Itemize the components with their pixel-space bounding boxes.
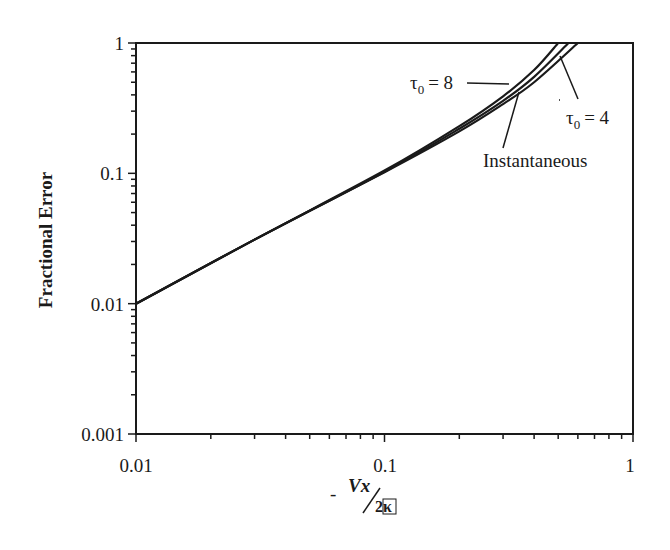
curve-2 xyxy=(136,43,578,304)
y-axis-label: Fractional Error xyxy=(35,171,56,308)
annotation-tau4: τ0= 4 xyxy=(559,56,610,132)
y-tick-0.1: 0.1 xyxy=(100,163,124,184)
curve-1 xyxy=(136,43,568,304)
chart-canvas: 1 0.1 0.01 0.001 0.01 0.1 1 Fractional E… xyxy=(0,0,670,550)
plot-frame xyxy=(136,43,633,434)
svg-text:Instantaneous: Instantaneous xyxy=(483,150,587,171)
curve-0 xyxy=(136,43,558,304)
svg-text:τ0= 4: τ0= 4 xyxy=(566,107,610,132)
curves xyxy=(136,43,578,304)
x-axis-label: - Vx 2κ xyxy=(330,475,396,515)
svg-text:-: - xyxy=(330,483,336,504)
x-tick-0.01: 0.01 xyxy=(119,455,152,476)
axis-ticks xyxy=(128,43,633,442)
x-tick-0.1: 0.1 xyxy=(373,455,397,476)
svg-text:Vx: Vx xyxy=(348,475,371,496)
y-tick-0.001: 0.001 xyxy=(81,424,124,445)
svg-text:τ0= 8: τ0= 8 xyxy=(410,72,453,97)
x-tick-1: 1 xyxy=(625,455,635,476)
y-tick-1: 1 xyxy=(115,33,125,54)
y-tick-0.01: 0.01 xyxy=(91,294,124,315)
annotation-tau8: τ0= 8 xyxy=(410,72,509,97)
